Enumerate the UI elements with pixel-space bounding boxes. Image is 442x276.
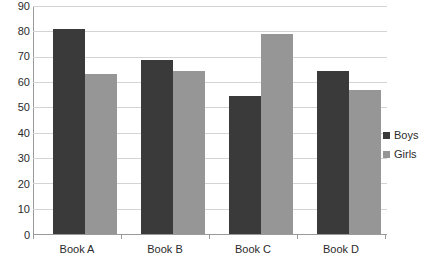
y-tick-label-40: 40	[2, 128, 30, 139]
y-tick-label-80: 80	[2, 26, 30, 37]
legend-item-girls: Girls	[383, 145, 442, 164]
y-tick-label-90: 90	[2, 1, 30, 12]
x-tick-3	[297, 234, 298, 239]
legend-label-girls: Girls	[394, 149, 417, 160]
y-tick-label-30: 30	[2, 153, 30, 164]
y-tick-label-0: 0	[2, 230, 30, 241]
y-tick-label-50: 50	[2, 102, 30, 113]
bar-chart: 90 80 70 60 50 40 30 20 10 0	[0, 0, 442, 276]
x-tick-1	[121, 234, 122, 239]
bar-group-book-d	[313, 6, 385, 234]
bar-boys-book-d	[317, 71, 349, 234]
y-axis-labels: 90 80 70 60 50 40 30 20 10 0	[0, 0, 30, 276]
plot-area	[33, 6, 387, 234]
chart-legend: Boys Girls	[383, 126, 442, 164]
bar-boys-book-a	[53, 29, 85, 234]
legend-item-boys: Boys	[383, 126, 442, 145]
axis-baseline	[33, 234, 387, 235]
x-tick-0	[33, 234, 34, 239]
bar-girls-book-a	[85, 74, 117, 234]
legend-swatch-girls-icon	[383, 151, 390, 158]
x-tick-2	[209, 234, 210, 239]
bar-group-book-b	[137, 6, 209, 234]
x-tick-4	[385, 234, 386, 239]
y-tick-label-20: 20	[2, 179, 30, 190]
y-tick-label-70: 70	[2, 51, 30, 62]
legend-swatch-boys-icon	[383, 132, 390, 139]
x-axis-label-book-b: Book B	[121, 244, 209, 255]
bar-girls-book-d	[349, 90, 381, 234]
bar-group-book-c	[225, 6, 297, 234]
legend-label-boys: Boys	[394, 130, 418, 141]
bar-boys-book-b	[141, 60, 173, 234]
bar-girls-book-c	[261, 34, 293, 234]
y-tick-label-60: 60	[2, 77, 30, 88]
x-axis-label-book-c: Book C	[209, 244, 297, 255]
bar-girls-book-b	[173, 71, 205, 234]
bar-group-book-a	[49, 6, 121, 234]
y-tick-label-10: 10	[2, 204, 30, 215]
x-axis-label-book-d: Book D	[297, 244, 385, 255]
x-axis-label-book-a: Book A	[33, 244, 121, 255]
bar-boys-book-c	[229, 96, 261, 234]
